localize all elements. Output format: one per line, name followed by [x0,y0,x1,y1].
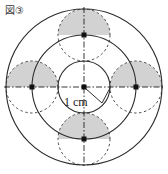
measurement-label: 1 cm [64,95,88,109]
left-point [30,85,35,90]
right-point [134,85,139,90]
center-point [82,85,87,90]
figure-number-label: 図③ [5,5,24,17]
concentric-circles-diagram [0,0,168,174]
bottom-point [82,137,87,142]
top-point [82,33,87,38]
figure-container: 図③ 1 cm [0,0,168,174]
